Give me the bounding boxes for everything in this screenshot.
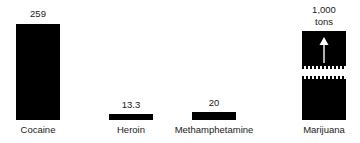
value-label-heroin: 13.3 — [122, 99, 141, 110]
category-label-cocaine: Cocaine — [21, 124, 56, 135]
value-label-cocaine: 259 — [30, 8, 46, 19]
bar-group-marijuana: 1,000 tons Marijuana — [302, 0, 346, 143]
category-label-heroin: Heroin — [117, 124, 145, 135]
category-label-marijuana: Marijuana — [303, 124, 345, 135]
bar-heroin — [109, 114, 153, 120]
bar-marijuana-lower-segment — [302, 76, 346, 120]
value-label-marijuana: 1,000 — [312, 4, 336, 15]
bar-methamphetamine — [192, 112, 236, 120]
unit-label-marijuana: tons — [315, 16, 333, 27]
value-label-methamphetamine: 20 — [209, 97, 220, 108]
bar-group-cocaine: 259 Cocaine — [16, 0, 60, 143]
category-label-methamphetamine: Methamphetamine — [175, 124, 254, 135]
bar-marijuana-upper-segment — [302, 31, 346, 69]
bar-chart: 259 Cocaine 13.3 Heroin 20 Methamphetami… — [0, 0, 360, 143]
bar-group-heroin: 13.3 Heroin — [109, 0, 153, 143]
bar-cocaine — [16, 24, 60, 120]
bar-group-methamphetamine: 20 Methamphetamine — [192, 0, 236, 143]
